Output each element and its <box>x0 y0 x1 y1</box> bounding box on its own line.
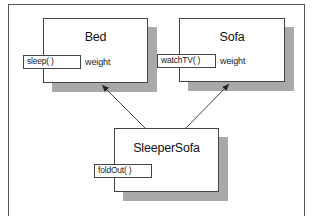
arrow-sleepersofa-to-sofa <box>186 84 229 128</box>
inheritance-arrows <box>0 0 313 216</box>
arrow-sleepersofa-to-bed <box>102 85 145 128</box>
